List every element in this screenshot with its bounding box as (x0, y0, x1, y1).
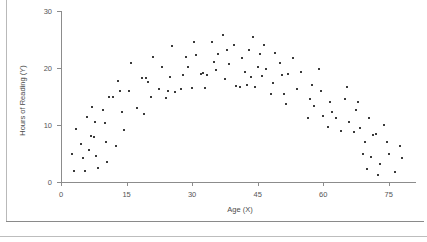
data-point (73, 170, 75, 172)
data-point (141, 77, 143, 79)
data-point (296, 88, 298, 90)
data-point (161, 66, 163, 68)
data-point (193, 41, 195, 43)
x-tick-mark (389, 182, 390, 186)
data-point (355, 109, 357, 111)
x-tick-label: 60 (311, 190, 335, 199)
data-point (368, 117, 370, 119)
x-tick-label: 0 (49, 190, 73, 199)
data-point (108, 96, 110, 98)
data-point (379, 163, 381, 165)
data-point (329, 101, 331, 103)
x-axis-line (61, 182, 416, 183)
data-point (180, 88, 182, 90)
data-point (279, 62, 281, 64)
data-point (128, 90, 130, 92)
data-point (250, 76, 252, 78)
figure-container: ...... 0102030 01530456075 Hours of Read… (0, 0, 427, 242)
data-point (185, 56, 187, 58)
data-point (246, 84, 248, 86)
data-point (285, 103, 287, 105)
data-point (152, 56, 154, 58)
data-point (84, 170, 86, 172)
data-point (235, 85, 237, 87)
data-point (375, 133, 377, 135)
data-point (95, 155, 97, 157)
data-point (88, 149, 90, 151)
data-point (119, 90, 121, 92)
data-point (191, 87, 193, 89)
x-axis-label: Age (X) (160, 205, 320, 214)
data-point (150, 96, 152, 98)
x-tick-mark (258, 182, 259, 186)
data-point (274, 52, 276, 54)
data-point (204, 87, 206, 89)
data-point (222, 34, 224, 36)
x-tick-mark (127, 182, 128, 186)
y-tick-label: 10 (30, 121, 52, 130)
data-point (97, 167, 99, 169)
data-point (346, 86, 348, 88)
data-point (270, 93, 272, 95)
data-point (344, 98, 346, 100)
x-tick-mark (323, 182, 324, 186)
data-point (364, 141, 366, 143)
data-point (281, 74, 283, 76)
data-point (169, 76, 171, 78)
data-point (226, 49, 228, 51)
data-point (228, 63, 230, 65)
data-point (348, 121, 350, 123)
data-point (106, 161, 108, 163)
data-point (213, 61, 215, 63)
data-point (239, 86, 241, 88)
y-tick-mark (57, 125, 61, 126)
data-point (104, 122, 106, 124)
data-point (211, 41, 213, 43)
data-point (71, 153, 73, 155)
data-point (261, 75, 263, 77)
data-point (259, 53, 261, 55)
data-point (90, 135, 92, 137)
data-point (202, 72, 204, 74)
data-point (318, 68, 320, 70)
data-point (112, 96, 114, 98)
x-tick-label: 75 (377, 190, 401, 199)
data-point (292, 57, 294, 59)
data-point (117, 80, 119, 82)
data-point (252, 36, 254, 38)
data-point (123, 129, 125, 131)
data-point (158, 88, 160, 90)
data-point (115, 145, 117, 147)
data-point (215, 69, 217, 71)
data-point (283, 93, 285, 95)
data-point (331, 111, 333, 113)
data-point (257, 66, 259, 68)
data-point (94, 121, 96, 123)
y-tick-mark (57, 68, 61, 69)
data-point (313, 105, 315, 107)
data-point (93, 136, 95, 138)
data-point (91, 106, 93, 108)
data-point (121, 111, 123, 113)
data-point (224, 78, 226, 80)
data-point (394, 171, 396, 173)
data-point (307, 117, 309, 119)
data-point (86, 116, 88, 118)
data-point (233, 44, 235, 46)
data-point (143, 113, 145, 115)
data-point (300, 71, 302, 73)
data-point (102, 109, 104, 111)
data-point (136, 107, 138, 109)
data-point (377, 174, 379, 176)
data-point (362, 153, 364, 155)
data-point (80, 143, 82, 145)
data-point (241, 57, 243, 59)
data-point (217, 53, 219, 55)
data-point (340, 130, 342, 132)
data-point (401, 157, 403, 159)
data-point (335, 117, 337, 119)
data-point (182, 74, 184, 76)
data-point (145, 77, 147, 79)
y-tick-label: 20 (30, 64, 52, 73)
data-point (254, 86, 256, 88)
